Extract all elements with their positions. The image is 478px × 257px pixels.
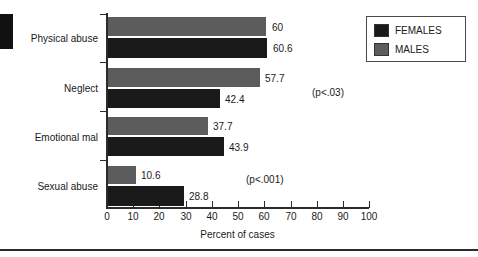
bar-females-physical-abuse bbox=[108, 38, 267, 58]
x-axis-tick bbox=[317, 201, 318, 208]
annotation-p-value-neglect: (p<.03) bbox=[312, 87, 344, 98]
x-axis-tick bbox=[343, 201, 344, 208]
x-tick-label: 0 bbox=[104, 211, 110, 222]
bar-males-sexual-abuse bbox=[108, 166, 136, 184]
category-label-sexual-abuse: Sexual abuse bbox=[37, 181, 98, 192]
page-bottom-rule bbox=[0, 249, 478, 251]
chart-figure: 0 10 20 30 40 50 60 70 80 90 100 Percent… bbox=[0, 0, 478, 257]
x-axis-tick bbox=[264, 201, 265, 208]
x-tick-label: 90 bbox=[337, 211, 348, 222]
x-tick-label: 70 bbox=[285, 211, 296, 222]
y-axis-tick bbox=[100, 14, 106, 15]
x-axis-tick bbox=[369, 201, 370, 208]
bar-females-sexual-abuse bbox=[108, 186, 184, 206]
x-tick-label: 30 bbox=[180, 211, 191, 222]
bar-value-males-physical-abuse: 60 bbox=[272, 22, 283, 33]
x-axis-tick bbox=[186, 201, 187, 208]
bar-value-males-neglect: 57.7 bbox=[265, 73, 284, 84]
x-tick-label: 50 bbox=[232, 211, 243, 222]
annotation-p-value-sexual-abuse: (p<.001) bbox=[246, 174, 284, 185]
x-axis-tick bbox=[291, 201, 292, 208]
x-tick-label: 20 bbox=[153, 211, 164, 222]
bar-value-males-sexual-abuse: 10.6 bbox=[141, 170, 160, 181]
bar-males-neglect bbox=[108, 68, 260, 87]
bar-males-emotional-mal bbox=[108, 117, 208, 135]
category-label-emotional-mal: Emotional mal bbox=[35, 132, 98, 143]
bar-value-males-emotional-mal: 37.7 bbox=[213, 121, 232, 132]
x-tick-label: 100 bbox=[361, 211, 378, 222]
bar-females-neglect bbox=[108, 89, 220, 108]
bar-males-physical-abuse bbox=[108, 17, 266, 36]
y-axis-tick bbox=[100, 111, 106, 112]
bar-value-females-emotional-mal: 43.9 bbox=[229, 142, 248, 153]
x-tick-label: 80 bbox=[311, 211, 322, 222]
legend-label-females: FEMALES bbox=[395, 25, 442, 36]
x-tick-label: 40 bbox=[206, 211, 217, 222]
x-axis-tick bbox=[238, 201, 239, 208]
x-tick-label: 10 bbox=[127, 211, 138, 222]
legend-swatch-males-icon bbox=[374, 43, 389, 56]
x-axis-tick bbox=[212, 201, 213, 208]
bar-females-emotional-mal bbox=[108, 137, 224, 156]
legend-item-males: MALES bbox=[374, 42, 429, 56]
category-label-physical-abuse: Physical abuse bbox=[31, 33, 98, 44]
category-label-neglect: Neglect bbox=[64, 83, 98, 94]
bar-value-females-physical-abuse: 60.6 bbox=[273, 43, 292, 54]
bar-value-females-neglect: 42.4 bbox=[225, 94, 244, 105]
x-tick-label: 60 bbox=[258, 211, 269, 222]
legend-label-males: MALES bbox=[395, 44, 429, 55]
legend-item-females: FEMALES bbox=[374, 23, 442, 37]
chart-legend: FEMALES MALES bbox=[366, 16, 466, 62]
y-axis-tick bbox=[100, 160, 106, 161]
bar-value-females-sexual-abuse: 28.8 bbox=[189, 191, 208, 202]
x-axis-title: Percent of cases bbox=[106, 229, 369, 240]
legend-swatch-females-icon bbox=[374, 24, 389, 37]
y-axis-tick bbox=[100, 62, 106, 63]
